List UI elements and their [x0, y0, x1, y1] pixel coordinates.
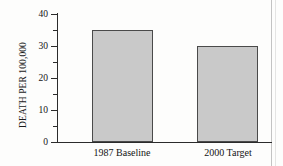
- x-category-label-2: 2000 Target: [168, 146, 283, 159]
- y-tick-0: [51, 142, 57, 143]
- y-tick-minor-25: [53, 62, 57, 63]
- y-tick-30: [51, 46, 57, 47]
- y-tick-minor-5: [53, 126, 57, 127]
- bar-chart-figure: DEATH PER 100,000 40 30 20 10 0 1987 Bas…: [0, 0, 283, 166]
- y-tick-label-20: 20: [22, 73, 48, 83]
- y-axis-title: DEATH PER 100,000: [16, 20, 30, 150]
- page-scan-edge-secondary: [275, 0, 276, 166]
- y-tick-minor-35: [53, 30, 57, 31]
- bar-1987-baseline: [92, 30, 153, 142]
- y-tick-minor-15: [53, 94, 57, 95]
- y-tick-label-30: 30: [22, 41, 48, 51]
- y-tick-10: [51, 110, 57, 111]
- y-axis-line: [57, 13, 58, 143]
- x-axis-line: [57, 142, 272, 143]
- bar-2000-target: [197, 46, 258, 142]
- y-tick-label-10: 10: [22, 105, 48, 115]
- y-tick-label-40: 40: [22, 9, 48, 19]
- y-tick-20: [51, 78, 57, 79]
- y-tick-label-0: 0: [22, 137, 48, 147]
- x-category-label-1: 1987 Baseline: [62, 146, 182, 159]
- y-tick-40: [51, 14, 57, 15]
